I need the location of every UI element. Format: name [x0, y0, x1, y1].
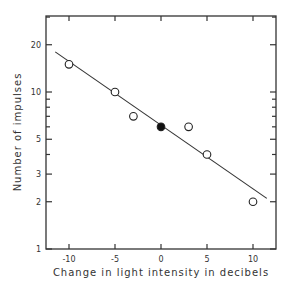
x-tick-label: -5: [111, 255, 119, 264]
y-tick-label: 20: [31, 41, 41, 50]
y-tick-label: 2: [36, 198, 41, 207]
y-axis-label: Number of impulses: [12, 73, 23, 192]
y-axis-ticks: 12351020: [31, 17, 276, 254]
data-series: [55, 52, 267, 206]
plot-border: [46, 16, 276, 249]
open-data-point: [65, 61, 73, 69]
x-tick-label: 10: [248, 255, 258, 264]
x-tick-label: -10: [62, 255, 75, 264]
open-data-point: [203, 151, 211, 159]
y-tick-label: 1: [36, 245, 41, 254]
x-tick-label: 0: [158, 255, 163, 264]
open-data-point: [249, 198, 257, 206]
plot-frame: [46, 16, 276, 249]
y-tick-label: 5: [36, 135, 41, 144]
filled-data-point: [157, 123, 165, 131]
y-tick-label: 3: [36, 170, 41, 179]
open-data-point: [185, 123, 193, 131]
chart: -10-50510 12351020 Change in light inten…: [0, 0, 289, 293]
y-tick-label: 10: [31, 88, 41, 97]
x-tick-label: 5: [204, 255, 209, 264]
open-data-point: [130, 113, 138, 121]
open-data-point: [111, 88, 119, 96]
x-axis-ticks: -10-50510: [62, 16, 258, 264]
x-axis-label: Change in light intensity in decibels: [53, 267, 269, 278]
